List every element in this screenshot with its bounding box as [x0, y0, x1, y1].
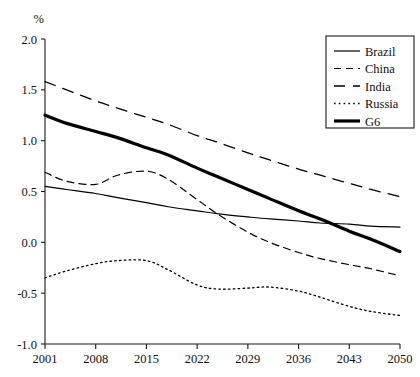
y-tick-label: 0.5: [21, 185, 37, 199]
y-tick-label: 1.5: [21, 83, 37, 97]
y-tick-label: 2.0: [21, 33, 37, 47]
x-tick-label: 2029: [235, 352, 260, 366]
x-tick-label: 2050: [388, 352, 413, 366]
y-tick-label: -1.0: [17, 338, 37, 352]
x-tick-label: 2008: [83, 352, 108, 366]
x-tick-label: 2001: [33, 352, 58, 366]
chart-canvas: 2.01.51.00.50.0-0.5-1.0 2001200820152022…: [0, 0, 420, 377]
chart-legend: BrazilChinaIndiaRussiaG6: [326, 36, 414, 129]
legend-label-g6: G6: [365, 115, 380, 129]
line-chart-figure: 2.01.51.00.50.0-0.5-1.0 2001200820152022…: [0, 0, 420, 377]
series-line-russia: [45, 260, 400, 316]
series-line-brazil: [45, 186, 400, 227]
y-tick-label: -0.5: [17, 287, 37, 301]
x-axis-ticks: 20012008201520222029203620432050: [33, 344, 413, 366]
legend-label-brazil: Brazil: [365, 45, 396, 59]
x-tick-label: 2043: [337, 352, 362, 366]
legend-label-china: China: [365, 62, 395, 76]
x-tick-label: 2022: [185, 352, 210, 366]
x-tick-label: 2036: [286, 352, 311, 366]
x-tick-label: 2015: [134, 352, 159, 366]
series-line-g6: [45, 115, 400, 251]
y-axis-ticks: 2.01.51.00.50.0-0.5-1.0: [17, 33, 45, 352]
legend-label-india: India: [365, 80, 391, 94]
y-tick-label: 0.0: [21, 236, 37, 250]
legend-label-russia: Russia: [365, 97, 399, 111]
y-axis-unit-label: %: [34, 12, 44, 26]
y-tick-label: 1.0: [21, 134, 37, 148]
